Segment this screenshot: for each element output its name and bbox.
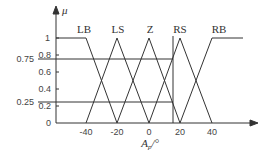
x-tick-20: 20	[175, 127, 185, 137]
y-tick-02: 0.2	[38, 101, 51, 111]
series-LB	[56, 38, 117, 123]
x-tick-0: 0	[146, 127, 151, 137]
x-tick-40: 40	[207, 127, 217, 137]
y-tick-0: 0	[46, 118, 51, 128]
y-tick-06: 0.6	[38, 67, 51, 77]
label-075: 0.75	[16, 54, 34, 64]
series-Z	[117, 38, 180, 123]
y-tick-1: 1	[45, 33, 50, 43]
y-axis-label: μ	[61, 4, 68, 16]
series-RS	[149, 38, 212, 123]
legend-LB: LB	[77, 23, 91, 35]
series-RB	[180, 38, 243, 123]
legend-RS: RS	[173, 23, 186, 35]
legend-RB: RB	[212, 23, 227, 35]
y-tick-04: 0.4	[38, 84, 51, 94]
x-tick-m20: -20	[110, 127, 123, 137]
legend-Z: Z	[147, 23, 154, 35]
legend-LS: LS	[112, 23, 125, 35]
series-LS	[86, 38, 149, 123]
y-tick-08: 0.8	[38, 50, 51, 60]
membership-curves	[56, 38, 243, 123]
label-025: 0.25	[16, 97, 34, 107]
x-axis-label: Ap/°	[140, 137, 159, 151]
x-axis-arrow	[250, 120, 258, 126]
x-tick-m40: -40	[79, 127, 92, 137]
y-axis-arrow	[53, 6, 59, 14]
membership-function-chart: 1 0.8 0.6 0.4 0.2 0 0.75 0.25 -40 -20 0 …	[0, 0, 279, 159]
